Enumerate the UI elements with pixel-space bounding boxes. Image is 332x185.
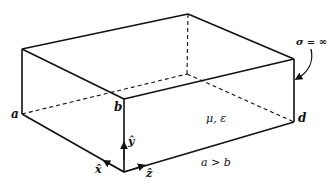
conductor-pointer-arrow — [298, 49, 312, 78]
vertex-label-d: d — [298, 112, 306, 124]
vertex-label-b: b — [114, 101, 122, 113]
vertex-label-a: a — [11, 108, 19, 120]
condition-label: a > b — [201, 157, 231, 168]
medium-label: μ, ε — [206, 113, 226, 124]
conductivity-label: σ = ∞ — [296, 37, 327, 47]
z-axis-arrow — [124, 166, 142, 172]
cavity-drawing — [0, 0, 332, 185]
cavity-diagram: a b d μ, ε σ = ∞ a > b x̂ ŷ ẑ — [0, 0, 332, 185]
x-axis-label: x̂ — [95, 164, 102, 175]
x-axis-arrow — [106, 162, 124, 172]
y-axis-label: ŷ — [128, 136, 134, 147]
z-axis-label: ẑ — [146, 168, 152, 179]
box-visible-edges — [22, 14, 294, 172]
